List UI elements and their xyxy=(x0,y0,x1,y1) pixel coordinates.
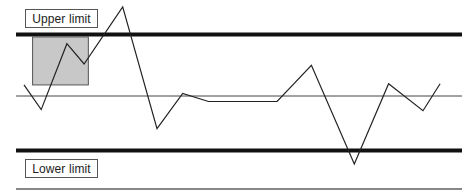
data-series-line xyxy=(24,7,440,164)
lower-limit-label: Lower limit xyxy=(25,159,98,178)
upper-limit-label: Upper limit xyxy=(25,9,98,28)
